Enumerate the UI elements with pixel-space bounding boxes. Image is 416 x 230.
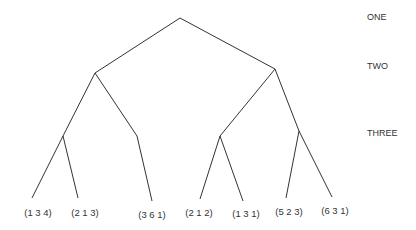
tree-edges xyxy=(32,18,332,201)
tree-diagram: (1 3 4)(2 1 3)(3 6 1)(2 1 2)(1 3 1)(5 2 … xyxy=(0,0,416,230)
tree-edge xyxy=(220,136,243,201)
tree-edge xyxy=(32,136,63,198)
tree-edge xyxy=(180,18,275,69)
tree-edge xyxy=(286,131,299,198)
level-label-one: ONE xyxy=(367,12,387,22)
tree-edge xyxy=(299,131,332,197)
tree-edge xyxy=(95,18,180,73)
leaf-label: (2 1 3) xyxy=(71,207,98,218)
level-label-two: TWO xyxy=(367,61,388,71)
tree-edge xyxy=(63,136,78,198)
tree-edge xyxy=(220,69,275,136)
leaf-label: (2 1 2) xyxy=(185,207,212,218)
level-labels: ONETWOTHREE xyxy=(367,12,398,138)
leaf-label: (1 3 4) xyxy=(24,207,51,218)
tree-edge xyxy=(95,73,137,136)
leaf-labels: (1 3 4)(2 1 3)(3 6 1)(2 1 2)(1 3 1)(5 2 … xyxy=(24,205,348,220)
tree-edge xyxy=(200,136,220,199)
leaf-label: (3 6 1) xyxy=(138,209,165,220)
leaf-label: (6 3 1) xyxy=(321,205,348,216)
level-label-three: THREE xyxy=(367,128,398,138)
tree-edge xyxy=(63,73,95,136)
leaf-label: (5 2 3) xyxy=(275,206,302,217)
tree-edge xyxy=(137,136,152,201)
leaf-label: (1 3 1) xyxy=(232,208,259,219)
tree-edge xyxy=(275,69,299,131)
